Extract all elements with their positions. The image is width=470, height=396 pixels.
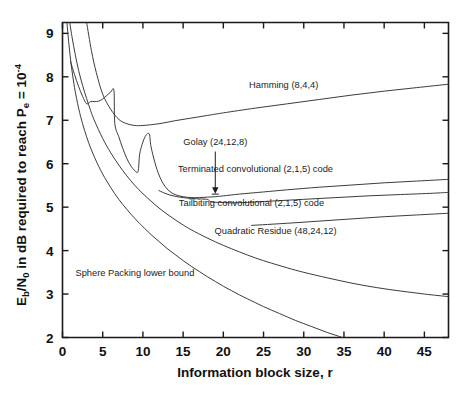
- x-tick-label: 20: [216, 344, 231, 359]
- y-tick-label: 4: [46, 244, 54, 259]
- y-tick-label: 3: [46, 287, 54, 302]
- x-tick-label: 10: [135, 344, 150, 359]
- y-tick-label: 8: [46, 70, 54, 85]
- y-tick-label: 6: [46, 157, 54, 172]
- y-axis-title: Eb/N0 in dB required to reach Pe = 10-4: [12, 63, 31, 306]
- x-tick-label: 40: [377, 344, 392, 359]
- chart-figure: 051015202530354045 23456789 Hamming (8,4…: [0, 0, 470, 396]
- x-tick-label: 25: [256, 344, 272, 359]
- annotation-label: Golay (24,12,8): [183, 137, 247, 147]
- y-tick-label: 2: [46, 331, 54, 346]
- y-tick-label: 5: [46, 200, 54, 215]
- annotation-label: Tailbiting convolutional (2,1,5) code: [179, 198, 324, 208]
- x-tick-label: 15: [176, 344, 192, 359]
- y-tick-label: 7: [46, 113, 54, 128]
- x-tick-label: 35: [336, 344, 352, 359]
- svg-text:Eb/N0 in dB required to reach: Eb/N0 in dB required to reach Pe = 10-4: [12, 63, 31, 306]
- x-tick-label: 5: [99, 344, 107, 359]
- annotation-label: Hamming (8,4,4): [249, 80, 318, 90]
- annotation-label: Terminated convolutional (2,1,5) code: [178, 164, 333, 174]
- annotation-label: Sphere Packing lower bound: [75, 268, 194, 278]
- annotation-label: Quadratic Residue (48,24,12): [215, 226, 337, 236]
- x-tick-label: 45: [417, 344, 433, 359]
- x-tick-label: 0: [59, 344, 67, 359]
- x-tick-label: 30: [296, 344, 311, 359]
- x-axis-title: Information block size, r: [177, 365, 333, 380]
- y-tick-label: 9: [46, 26, 54, 41]
